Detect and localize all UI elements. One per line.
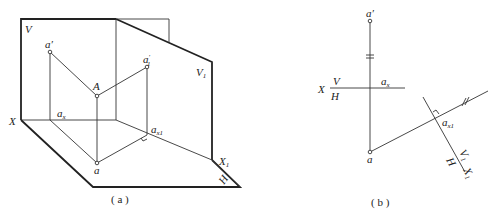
label-H: H bbox=[215, 172, 231, 187]
h-plane-outline bbox=[21, 120, 240, 187]
label-H: H bbox=[330, 90, 340, 102]
v1-plane-outline bbox=[116, 19, 212, 160]
point-a-prime bbox=[48, 50, 52, 54]
label-X1: X1 bbox=[218, 155, 229, 169]
projector-a-to-ax1 bbox=[97, 135, 147, 163]
projection-diagram: V a′ a′1 V1 A ax X ax1 X1 a H ( a ) a′ X bbox=[0, 0, 488, 216]
label-ax1: ax1 bbox=[442, 116, 454, 130]
point-a-prime bbox=[368, 19, 372, 23]
label-A: A bbox=[92, 80, 100, 92]
label-ax1: ax1 bbox=[151, 123, 163, 137]
label-V1: V1 bbox=[196, 66, 206, 80]
label-X: X bbox=[8, 115, 17, 127]
label-V: V bbox=[333, 75, 341, 87]
figure-a-pictorial-view: V a′ a′1 V1 A ax X ax1 X1 a H ( a ) bbox=[8, 19, 240, 206]
point-A bbox=[95, 94, 99, 98]
caption-a: ( a ) bbox=[111, 193, 129, 206]
right-angle-mark bbox=[141, 138, 147, 141]
label-a: a bbox=[94, 164, 100, 176]
label-ax: ax bbox=[57, 107, 67, 121]
label-a-prime: a′ bbox=[366, 7, 375, 19]
figure-b-orthographic-view: a′ X V H ax ax1 a V1 H X1 ( b ) bbox=[317, 7, 488, 209]
projector-A-to-a1-prime bbox=[97, 67, 147, 96]
label-ax: ax bbox=[381, 75, 391, 89]
label-a: a bbox=[367, 153, 373, 165]
projector-a-to-a1-prime bbox=[370, 91, 488, 152]
projector-ax-to-a bbox=[50, 120, 97, 163]
label-X: X bbox=[317, 83, 326, 95]
right-angle-mark bbox=[433, 110, 439, 114]
projector-a-prime-to-A bbox=[50, 52, 97, 96]
caption-b: ( b ) bbox=[371, 196, 390, 209]
label-a-prime: a′ bbox=[45, 38, 54, 50]
x1-axis-line bbox=[116, 120, 212, 160]
label-a1-prime: a′1 bbox=[143, 53, 151, 68]
label-V: V bbox=[25, 23, 33, 35]
